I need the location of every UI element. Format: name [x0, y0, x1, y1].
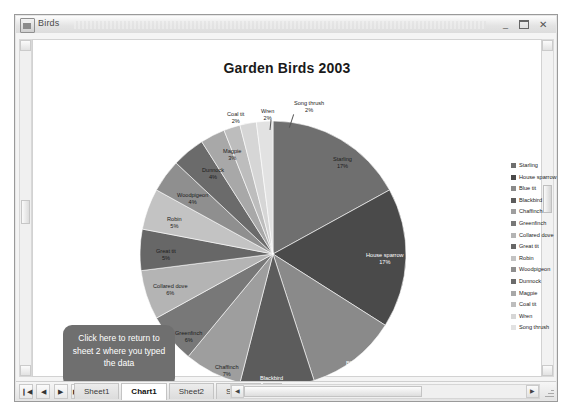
legend-label: Chaffinch — [519, 208, 543, 214]
legend-swatch-icon — [511, 198, 516, 203]
sheet-tab-bar: ❙◀ ◀ ▶ ▶❙ Sheet1Chart1Sheet2Sheet3↰ ◀ ▶ — [16, 381, 556, 400]
scroll-down-icon[interactable] — [20, 365, 31, 376]
scroll-left-icon[interactable]: ◀ — [231, 385, 244, 398]
scroll-up-icon[interactable] — [20, 40, 31, 51]
sheet-tab-sheet1[interactable]: Sheet1 — [74, 383, 119, 399]
callout-bubble[interactable]: Click here to return to sheet 2 where yo… — [63, 325, 175, 387]
legend-swatch-icon — [511, 244, 516, 249]
legend-label: Collared dove — [519, 232, 554, 238]
scroll-thumb[interactable] — [244, 386, 422, 397]
pie-label-blue-tit: Blue tit11% — [346, 360, 363, 374]
legend-label: Coal tit — [519, 301, 536, 307]
pie-label-coal-tit: Coal tit2% — [227, 111, 244, 125]
legend-item-starling[interactable]: Starling — [511, 160, 570, 172]
next-sheet-icon[interactable]: ▶ — [54, 384, 68, 399]
legend-item-chaffinch[interactable]: Chaffinch — [511, 206, 570, 218]
pie-label-greenfinch: Greenfinch6% — [175, 330, 202, 344]
legend-item-great-tit[interactable]: Great tit — [511, 241, 570, 253]
callout-text: Click here to return to sheet 2 where yo… — [69, 332, 169, 370]
pie-label-great-tit: Great tit5% — [156, 248, 176, 262]
legend-swatch-icon — [511, 325, 516, 330]
legend-swatch-icon — [511, 267, 516, 272]
window-title: Birds — [38, 18, 60, 28]
legend-label: Greenfinch — [519, 220, 546, 226]
first-sheet-icon[interactable]: ❙◀ — [19, 384, 33, 399]
legend-swatch-icon — [511, 233, 516, 238]
legend-item-woodpigeon[interactable]: Woodpigeon — [511, 264, 570, 276]
title-bar-texture — [74, 21, 486, 29]
pie-label-song-thrush: Song thrush2% — [294, 100, 324, 114]
pie-label-collared-dove: Collared dove6% — [153, 283, 188, 297]
legend-label: Wren — [519, 313, 532, 319]
scroll-thumb[interactable] — [21, 200, 30, 224]
excel-chart-window-screenshot: Birds _ ✕ — [0, 0, 570, 414]
scroll-right-icon[interactable]: ▶ — [526, 385, 539, 398]
sheet-tab-sheet2[interactable]: Sheet2 — [169, 383, 214, 399]
sheet-tab-chart1[interactable]: Chart1 — [121, 383, 166, 400]
legend-item-robin[interactable]: Robin — [511, 253, 570, 265]
legend-swatch-icon — [511, 163, 516, 168]
pie-label-robin: Robin5% — [167, 216, 182, 230]
legend-swatch-icon — [511, 256, 516, 261]
pie-label-chaffinch: Chaffinch7% — [215, 364, 239, 378]
legend-label: Starling — [519, 162, 538, 168]
legend-label: Dunnock — [519, 278, 541, 284]
resize-grip[interactable] — [543, 387, 554, 398]
pie-label-starling: Starling17% — [333, 156, 352, 170]
pie-chart[interactable]: Starling17%House sparrow17%Blue tit11%Bl… — [139, 120, 419, 390]
left-vertical-scrollbar[interactable] — [19, 39, 32, 377]
legend-label: Woodpigeon — [519, 266, 550, 272]
legend-item-greenfinch[interactable]: Greenfinch — [511, 218, 570, 230]
legend-label: Robin — [519, 255, 534, 261]
pie-label-wren: Wren2% — [261, 108, 274, 122]
legend-item-wren[interactable]: Wren — [511, 311, 570, 323]
window-controls: _ ✕ — [490, 18, 552, 31]
excel-workbook-icon — [20, 18, 35, 33]
pie-label-magpie: Magpie3% — [223, 148, 241, 162]
chart-sheet-body: Garden Birds 2003 Starling17%House sparr… — [16, 33, 556, 382]
legend-swatch-icon — [511, 175, 516, 180]
legend-swatch-icon — [511, 314, 516, 319]
legend-label: House sparrow — [519, 174, 557, 180]
scroll-up-icon[interactable] — [542, 40, 553, 51]
close-icon[interactable]: ✕ — [534, 18, 551, 31]
title-bar[interactable]: Birds _ ✕ — [16, 16, 556, 34]
pie-label-house-sparrow: House sparrow17% — [366, 252, 404, 266]
horizontal-scrollbar[interactable]: ◀ ▶ — [230, 384, 540, 399]
legend-swatch-icon — [511, 186, 516, 191]
legend-swatch-icon — [511, 291, 516, 296]
minimize-icon[interactable]: _ — [497, 18, 514, 31]
legend-label: Great tit — [519, 243, 539, 249]
workbook-window: Birds _ ✕ — [14, 14, 558, 402]
legend-item-house-sparrow[interactable]: House sparrow — [511, 172, 570, 184]
legend-item-dunnock[interactable]: Dunnock — [511, 276, 570, 288]
legend-label: Blackbird — [519, 197, 542, 203]
chart-plot-area[interactable]: Garden Birds 2003 Starling17%House sparr… — [32, 39, 542, 377]
legend-swatch-icon — [511, 279, 516, 284]
scroll-down-icon[interactable] — [542, 365, 553, 376]
prev-sheet-icon[interactable]: ◀ — [36, 384, 50, 399]
legend-item-magpie[interactable]: Magpie — [511, 288, 570, 300]
legend-label: Magpie — [519, 290, 537, 296]
legend-item-coal-tit[interactable]: Coal tit — [511, 299, 570, 311]
pie-label-woodpigeon: Woodpigeon4% — [177, 192, 208, 206]
legend-item-blackbird[interactable]: Blackbird — [511, 195, 570, 207]
legend-item-collared-dove[interactable]: Collared dove — [511, 230, 570, 242]
legend-swatch-icon — [511, 209, 516, 214]
legend-item-song-thrush[interactable]: Song thrush — [511, 322, 570, 334]
legend-swatch-icon — [511, 302, 516, 307]
maximize-restore-icon[interactable] — [515, 18, 532, 31]
chart-title: Garden Birds 2003 — [33, 60, 541, 76]
legend-item-blue-tit[interactable]: Blue tit — [511, 183, 570, 195]
chart-legend[interactable]: StarlingHouse sparrowBlue titBlackbirdCh… — [511, 160, 570, 334]
legend-label: Song thrush — [519, 324, 549, 330]
legend-label: Blue tit — [519, 185, 536, 191]
legend-swatch-icon — [511, 221, 516, 226]
pie-label-dunnock: Dunnock4% — [202, 167, 224, 181]
